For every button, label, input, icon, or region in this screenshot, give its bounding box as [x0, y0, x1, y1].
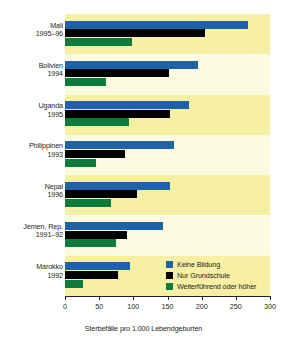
bar-1-5 [65, 231, 127, 239]
category-label-6: Marokko1992 [1, 263, 63, 280]
x-axis-tick-5 [236, 296, 237, 300]
bar-1-0 [65, 29, 205, 37]
plot-area [65, 14, 270, 296]
legend-label-secondary-plus: Weiterführend oder höher [177, 283, 256, 291]
x-axis-tick-0 [65, 296, 66, 300]
bar-1-1 [65, 69, 169, 77]
x-axis-tick-label-2: 100 [121, 302, 145, 311]
category-label-line: 1993 [1, 151, 63, 159]
category-label-4: Nepal1996 [1, 183, 63, 200]
x-axis-tick-3 [168, 296, 169, 300]
x-axis-tick-2 [133, 296, 134, 300]
x-axis-tick-label-5: 250 [224, 302, 248, 311]
x-axis-tick-6 [270, 296, 271, 300]
x-axis-tick-label-4: 200 [190, 302, 214, 311]
category-label-line: 1995 [1, 111, 63, 119]
bar-0-6 [65, 262, 130, 270]
bar-1-3 [65, 150, 125, 158]
bar-1-2 [65, 110, 170, 118]
legend-item-primary-only: Nur Grundschule [166, 270, 256, 281]
legend-label-primary-only: Nur Grundschule [177, 272, 230, 280]
legend-swatch-primary-only [166, 272, 173, 279]
bar-1-4 [65, 190, 137, 198]
x-axis-tick-label-6: 300 [258, 302, 282, 311]
bar-2-1 [65, 78, 106, 86]
x-axis-tick-4 [202, 296, 203, 300]
x-axis-tick-1 [99, 296, 100, 300]
bar-0-4 [65, 182, 170, 190]
legend-swatch-secondary-plus [166, 283, 173, 290]
bar-0-0 [65, 21, 248, 29]
bar-0-3 [65, 141, 174, 149]
x-axis-tick-label-1: 50 [87, 302, 111, 311]
bar-0-5 [65, 222, 163, 230]
category-label-0: Mali1995–96 [1, 22, 63, 39]
chart-container: Sterbefälle pro 1.000 Lebendgeburten Kei… [0, 0, 287, 353]
bar-2-6 [65, 280, 83, 288]
category-label-line: 1991–92 [1, 231, 63, 239]
bar-0-2 [65, 101, 189, 109]
category-label-line: 1996 [1, 191, 63, 199]
legend-item-secondary-plus: Weiterführend oder höher [166, 281, 256, 292]
category-label-line: 1995–96 [1, 30, 63, 38]
category-label-1: Bolivien1994 [1, 62, 63, 79]
bar-1-6 [65, 271, 118, 279]
bar-0-1 [65, 61, 198, 69]
x-axis-tick-label-0: 0 [53, 302, 77, 311]
bar-2-4 [65, 199, 111, 207]
bar-2-0 [65, 38, 132, 46]
legend-swatch-no-education [166, 261, 173, 268]
category-label-3: Philippinen1993 [1, 142, 63, 159]
chart-legend: Keine Bildung Nur Grundschule Weiterführ… [166, 259, 256, 292]
bar-2-5 [65, 239, 116, 247]
bar-2-2 [65, 118, 129, 126]
legend-label-no-education: Keine Bildung [177, 261, 220, 269]
category-label-2: Uganda1995 [1, 102, 63, 119]
x-axis-title: Sterbefälle pro 1.000 Lebendgeburten [0, 324, 287, 333]
category-label-line: 1992 [1, 272, 63, 280]
legend-item-no-education: Keine Bildung [166, 259, 256, 270]
category-label-line: 1994 [1, 70, 63, 78]
x-axis-tick-label-3: 150 [156, 302, 180, 311]
category-label-5: Jemen, Rep.1991–92 [1, 223, 63, 240]
bar-2-3 [65, 159, 96, 167]
